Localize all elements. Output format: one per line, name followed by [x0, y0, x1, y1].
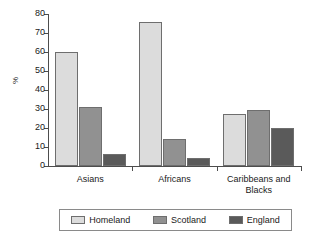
bar-chart: % 80706050403020100 AsiansAfricansCaribb… — [0, 0, 319, 239]
bar — [247, 110, 270, 166]
legend-item-england[interactable]: England — [229, 215, 280, 225]
y-axis-tick-label: 40 — [35, 84, 45, 95]
y-axis-tick-label: 0 — [40, 160, 45, 171]
bar — [223, 114, 246, 166]
y-axis-tick-label: 80 — [35, 8, 45, 19]
plot-area: 80706050403020100 — [48, 14, 301, 166]
y-axis-title-text: % — [12, 76, 21, 83]
y-axis-tick-label: 50 — [35, 65, 45, 76]
x-axis-category-label: Africans — [132, 174, 216, 185]
bar — [187, 158, 210, 166]
bar — [271, 128, 294, 166]
chart-legend: Homeland Scotland England — [59, 209, 292, 231]
x-axis-category-label: Asians — [48, 174, 132, 185]
y-axis-tick-label: 30 — [35, 103, 45, 114]
legend-swatch-scotland-icon — [153, 216, 167, 224]
y-axis-tick-label: 10 — [35, 141, 45, 152]
x-axis-category-label: Caribbeans and Blacks — [217, 174, 301, 196]
x-axis-separator — [301, 166, 302, 171]
x-axis-separator — [132, 166, 133, 171]
x-axis-line — [48, 166, 301, 167]
legend-swatch-homeland-icon — [71, 216, 85, 224]
bar — [55, 52, 78, 166]
legend-label-homeland: Homeland — [89, 215, 130, 225]
x-axis-separator — [217, 166, 218, 171]
bar — [79, 107, 102, 166]
y-axis-tick-label: 70 — [35, 27, 45, 38]
y-axis-tick-label: 20 — [35, 122, 45, 133]
legend-item-homeland[interactable]: Homeland — [71, 215, 130, 225]
y-axis-line — [48, 14, 49, 166]
legend-swatch-england-icon — [229, 216, 243, 224]
bar — [139, 22, 162, 166]
y-axis-title: % — [9, 60, 23, 100]
y-axis-tick-label: 60 — [35, 46, 45, 57]
bar — [163, 139, 186, 166]
legend-item-scotland[interactable]: Scotland — [153, 215, 206, 225]
legend-label-england: England — [247, 215, 280, 225]
legend-label-scotland: Scotland — [171, 215, 206, 225]
bar — [103, 154, 126, 166]
